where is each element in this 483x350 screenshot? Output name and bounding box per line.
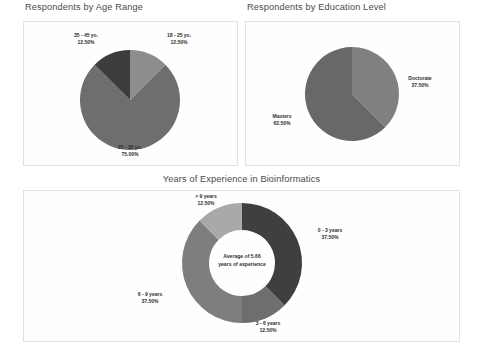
pie-chart-age-range: 18 - 25 yo. 12.50% 35 - 45 yo. 12.50% 25… [24,22,237,165]
donut-slice-6-9-years[interactable] [182,221,242,323]
donut-label-0-3-years: 0 - 3 years 37.50% [302,227,358,242]
chart-title-years-experience: Years of Experience in Bioinformatics [23,174,460,184]
chart-panel-age-range: 18 - 25 yo. 12.50% 35 - 45 yo. 12.50% 25… [23,21,238,166]
donut-center-annotation: Average of 5.66 years of experience [202,253,282,268]
chart-panel-years-experience: Average of 5.66 years of experience 0 - … [23,190,460,342]
pie-label-masters: Masters 62.50% [258,113,306,128]
pie-label-doctorate: Doctorate 37.50% [396,75,444,90]
chart-title-education-level: Respondents by Education Level [245,2,462,12]
pie-label-25-35: 25 - 35 yo. 75.00% [105,144,155,159]
pie-label-18-25: 18 - 25 yo. 12.50% [154,32,204,47]
chart-title-age-range: Respondents by Age Range [23,2,240,12]
donut-chart-years-experience: Average of 5.66 years of experience 0 - … [24,191,459,341]
chart-panel-education-level: Doctorate 37.50% Masters 62.50% [245,21,460,166]
donut-label-over-9-years: > 9 years 12.50% [178,193,234,208]
pie-label-35-45: 35 - 45 yo. 12.50% [61,32,111,47]
pie-chart-education-level: Doctorate 37.50% Masters 62.50% [246,22,459,165]
donut-label-6-9-years: 6 - 9 years 37.50% [122,291,178,306]
pie-svg-education-level [246,22,459,165]
donut-label-3-6-years: 3 - 6 years 12.50% [240,320,296,335]
